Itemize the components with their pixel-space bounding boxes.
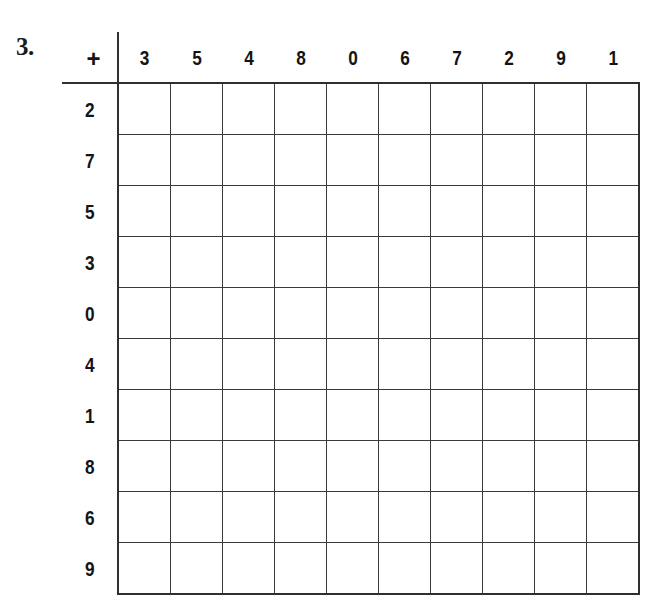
answer-cell[interactable]	[171, 186, 223, 237]
answer-cell[interactable]	[379, 237, 431, 288]
answer-cell[interactable]	[171, 441, 223, 492]
answer-cell[interactable]	[535, 83, 587, 135]
answer-cell[interactable]	[171, 135, 223, 186]
answer-cell[interactable]	[275, 441, 327, 492]
answer-cell[interactable]	[587, 135, 640, 186]
answer-cell[interactable]	[118, 441, 171, 492]
answer-cell[interactable]	[171, 492, 223, 543]
answer-cell[interactable]	[587, 186, 640, 237]
answer-cell[interactable]	[379, 543, 431, 595]
answer-cell[interactable]	[171, 83, 223, 135]
answer-cell[interactable]	[535, 135, 587, 186]
answer-cell[interactable]	[587, 288, 640, 339]
answer-cell[interactable]	[379, 288, 431, 339]
answer-cell[interactable]	[223, 543, 275, 595]
answer-cell[interactable]	[275, 135, 327, 186]
answer-cell[interactable]	[223, 237, 275, 288]
answer-cell[interactable]	[275, 288, 327, 339]
answer-cell[interactable]	[431, 492, 483, 543]
answer-cell[interactable]	[483, 135, 535, 186]
answer-cell[interactable]	[223, 186, 275, 237]
answer-cell[interactable]	[535, 339, 587, 390]
answer-cell[interactable]	[118, 492, 171, 543]
answer-cell[interactable]	[118, 237, 171, 288]
answer-cell[interactable]	[223, 492, 275, 543]
answer-cell[interactable]	[327, 339, 379, 390]
answer-cell[interactable]	[171, 288, 223, 339]
answer-cell[interactable]	[327, 237, 379, 288]
answer-cell[interactable]	[379, 83, 431, 135]
answer-cell[interactable]	[275, 492, 327, 543]
answer-cell[interactable]	[275, 543, 327, 595]
answer-cell[interactable]	[587, 543, 640, 595]
answer-cell[interactable]	[118, 135, 171, 186]
answer-cell[interactable]	[275, 83, 327, 135]
answer-cell[interactable]	[431, 83, 483, 135]
answer-cell[interactable]	[118, 339, 171, 390]
answer-cell[interactable]	[431, 441, 483, 492]
answer-cell[interactable]	[327, 186, 379, 237]
answer-cell[interactable]	[327, 288, 379, 339]
answer-cell[interactable]	[535, 390, 587, 441]
answer-cell[interactable]	[483, 390, 535, 441]
answer-cell[interactable]	[171, 237, 223, 288]
answer-cell[interactable]	[535, 441, 587, 492]
answer-cell[interactable]	[118, 186, 171, 237]
answer-cell[interactable]	[483, 492, 535, 543]
answer-cell[interactable]	[171, 390, 223, 441]
answer-cell[interactable]	[431, 135, 483, 186]
answer-cell[interactable]	[379, 186, 431, 237]
answer-cell[interactable]	[483, 441, 535, 492]
answer-cell[interactable]	[327, 135, 379, 186]
answer-cell[interactable]	[431, 186, 483, 237]
answer-cell[interactable]	[483, 288, 535, 339]
answer-cell[interactable]	[223, 339, 275, 390]
answer-cell[interactable]	[431, 288, 483, 339]
answer-cell[interactable]	[587, 339, 640, 390]
answer-cell[interactable]	[483, 543, 535, 595]
answer-cell[interactable]	[327, 543, 379, 595]
answer-cell[interactable]	[118, 390, 171, 441]
answer-cell[interactable]	[431, 543, 483, 595]
answer-cell[interactable]	[587, 83, 640, 135]
answer-cell[interactable]	[483, 83, 535, 135]
answer-cell[interactable]	[483, 237, 535, 288]
answer-cell[interactable]	[535, 237, 587, 288]
answer-cell[interactable]	[587, 492, 640, 543]
answer-cell[interactable]	[587, 237, 640, 288]
answer-cell[interactable]	[223, 288, 275, 339]
answer-cell[interactable]	[223, 83, 275, 135]
answer-cell[interactable]	[327, 441, 379, 492]
answer-cell[interactable]	[379, 339, 431, 390]
answer-cell[interactable]	[171, 543, 223, 595]
answer-cell[interactable]	[379, 492, 431, 543]
answer-cell[interactable]	[379, 390, 431, 441]
answer-cell[interactable]	[275, 390, 327, 441]
answer-cell[interactable]	[587, 390, 640, 441]
answer-cell[interactable]	[118, 83, 171, 135]
answer-cell[interactable]	[587, 441, 640, 492]
answer-cell[interactable]	[431, 390, 483, 441]
answer-cell[interactable]	[275, 186, 327, 237]
answer-cell[interactable]	[483, 339, 535, 390]
answer-cell[interactable]	[535, 288, 587, 339]
answer-cell[interactable]	[431, 339, 483, 390]
answer-cell[interactable]	[223, 441, 275, 492]
answer-cell[interactable]	[535, 186, 587, 237]
answer-cell[interactable]	[535, 492, 587, 543]
answer-cell[interactable]	[275, 339, 327, 390]
answer-cell[interactable]	[379, 135, 431, 186]
answer-cell[interactable]	[118, 288, 171, 339]
answer-cell[interactable]	[275, 237, 327, 288]
answer-cell[interactable]	[327, 492, 379, 543]
answer-cell[interactable]	[327, 390, 379, 441]
answer-cell[interactable]	[483, 186, 535, 237]
answer-cell[interactable]	[118, 543, 171, 595]
answer-cell[interactable]	[431, 237, 483, 288]
answer-cell[interactable]	[535, 543, 587, 595]
answer-cell[interactable]	[379, 441, 431, 492]
answer-cell[interactable]	[327, 83, 379, 135]
answer-cell[interactable]	[171, 339, 223, 390]
answer-cell[interactable]	[223, 135, 275, 186]
answer-cell[interactable]	[223, 390, 275, 441]
